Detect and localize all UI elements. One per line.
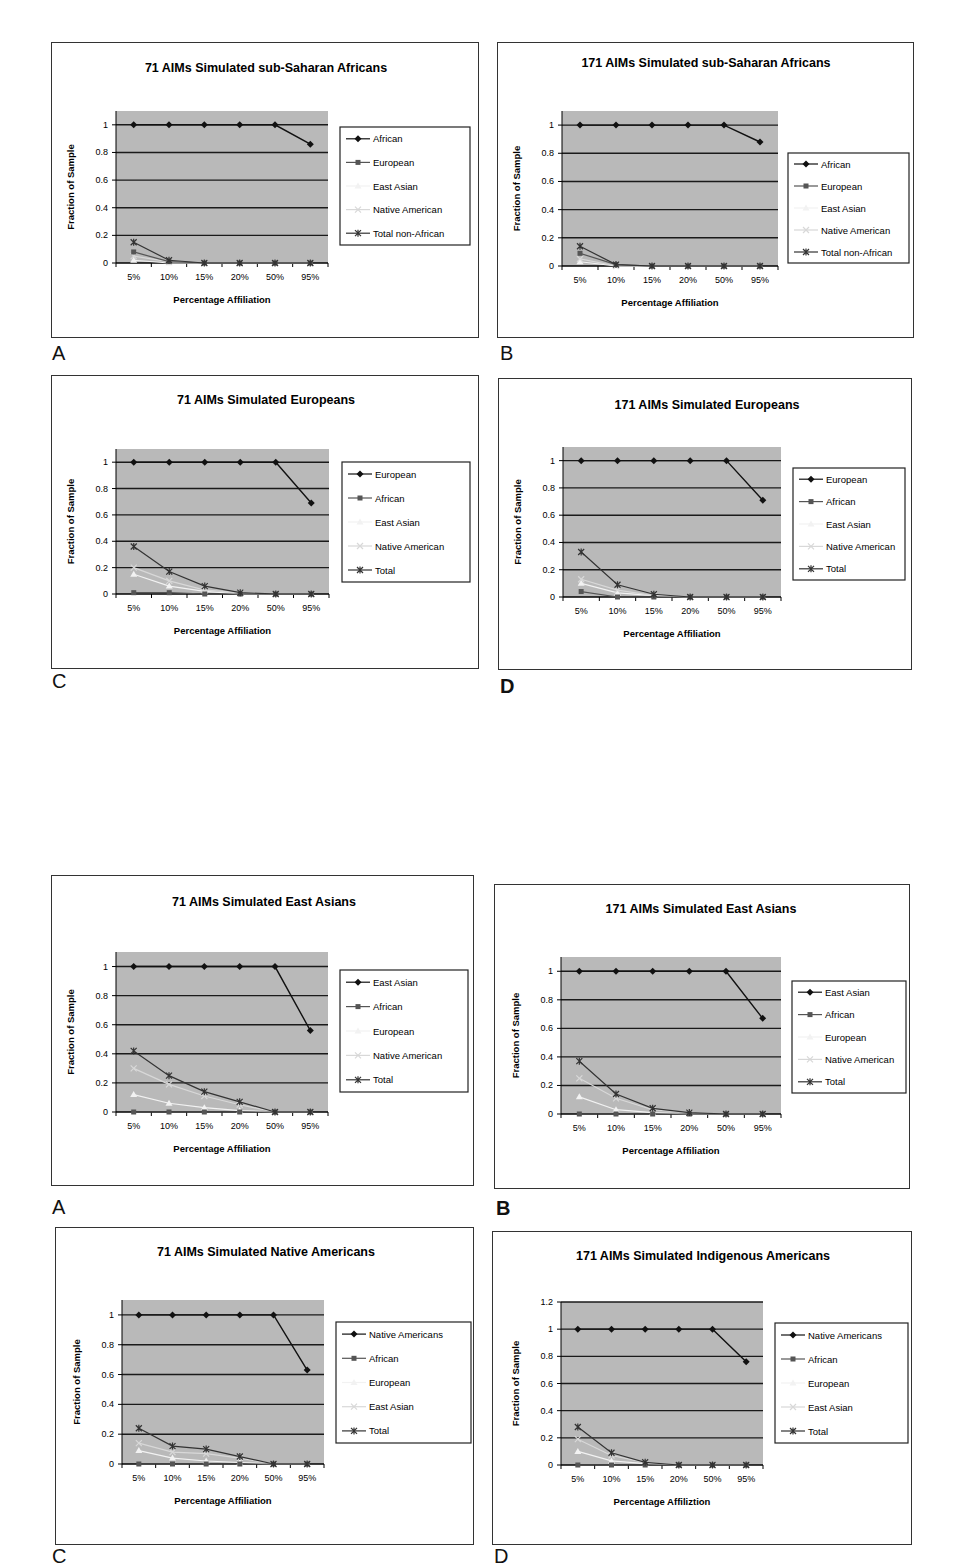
x-axis-label: Percentage Affiliation — [173, 1143, 271, 1154]
legend-label: African — [369, 1353, 399, 1364]
x-tick-label: 15% — [195, 272, 213, 282]
legend-label: Total non-African — [821, 247, 892, 258]
series-marker — [575, 1463, 580, 1468]
y-axis-label: Fraction of Sample — [512, 479, 523, 565]
x-tick-label: 20% — [670, 1474, 688, 1484]
y-tick-label: 0 — [548, 1109, 553, 1119]
y-tick-label: 0.4 — [95, 536, 108, 546]
legend-label: East Asian — [821, 203, 866, 214]
chart-title: 171 AIMs Simulated sub-Saharan Africans — [581, 56, 830, 70]
legend-label: African — [375, 493, 405, 504]
y-tick-label: 0.6 — [95, 510, 108, 520]
x-tick-label: 20% — [231, 272, 249, 282]
x-tick-label: 50% — [717, 1123, 735, 1133]
y-tick-label: 0.2 — [540, 1433, 553, 1443]
y-tick-label: 0.8 — [95, 147, 108, 157]
legend-label: Total — [373, 1074, 393, 1085]
legend-label: European — [373, 1026, 414, 1037]
y-tick-label: 0.4 — [542, 537, 555, 547]
x-tick-label: 95% — [754, 1123, 772, 1133]
legend-label: Total — [808, 1426, 828, 1437]
series-marker — [615, 595, 620, 600]
y-tick-label: 0 — [548, 1460, 553, 1470]
y-tick-label: 1 — [103, 962, 108, 972]
panel-label-bottom-B: B — [496, 1197, 510, 1220]
y-tick-label: 0 — [549, 261, 554, 271]
x-tick-label: 10% — [607, 275, 625, 285]
legend: Native AmericansAfricanEuropeanEast Asia… — [336, 1322, 471, 1443]
legend-label: East Asian — [373, 181, 418, 192]
plot-area — [112, 111, 328, 267]
x-tick-label: 10% — [160, 603, 178, 613]
y-tick-label: 0.2 — [95, 230, 108, 240]
y-tick-label: 1 — [103, 120, 108, 130]
plot-area — [558, 111, 778, 270]
y-axis-label: Fraction of Sample — [511, 146, 522, 232]
y-axis-label: Fraction of Sample — [510, 993, 521, 1079]
x-axis-label: Percentage Affiliation — [621, 297, 719, 308]
x-tick-label: 95% — [301, 1121, 319, 1131]
y-axis-label: Fraction of Sample — [65, 144, 76, 230]
legend-label: African — [808, 1354, 838, 1365]
chart-title: 171 AIMs Simulated Europeans — [614, 398, 799, 412]
x-tick-label: 50% — [267, 603, 285, 613]
legend-label: African — [826, 496, 856, 507]
y-tick-label: 0.8 — [540, 1351, 553, 1361]
chart-title: 71 AIMs Simulated Europeans — [177, 393, 355, 407]
legend-label: Native American — [821, 225, 890, 236]
legend-label: European — [808, 1378, 849, 1389]
x-tick-label: 50% — [266, 272, 284, 282]
y-tick-label: 0.6 — [542, 510, 555, 520]
legend-label: Native American — [373, 204, 442, 215]
x-tick-label: 95% — [301, 272, 319, 282]
y-axis-label: Fraction of Sample — [65, 479, 76, 565]
y-tick-label: 0.6 — [540, 1379, 553, 1389]
legend-label: European — [826, 474, 867, 485]
y-tick-label: 0.4 — [540, 1406, 553, 1416]
x-tick-label: 5% — [127, 272, 140, 282]
legend-marker — [352, 1356, 357, 1361]
x-tick-label: 15% — [636, 1474, 654, 1484]
panel-label-top-D: D — [500, 675, 514, 698]
y-axis-label: Fraction of Sample — [510, 1341, 521, 1427]
y-tick-label: 0.6 — [95, 175, 108, 185]
panel-label-bottom-C: C — [52, 1545, 66, 1567]
series-marker — [609, 1463, 614, 1468]
x-tick-label: 95% — [298, 1473, 316, 1483]
plot-area — [118, 1300, 324, 1468]
legend-label: Native American — [373, 1050, 442, 1061]
legend-marker — [356, 160, 361, 165]
chart-bottom-B: 171 AIMs Simulated East Asians00.20.40.6… — [494, 884, 910, 1189]
legend: EuropeanAfricanEast AsianNative American… — [793, 468, 905, 580]
x-tick-label: 50% — [266, 1121, 284, 1131]
plot-area — [557, 1302, 763, 1469]
chart-bottom-A: 71 AIMs Simulated East Asians00.20.40.60… — [51, 875, 474, 1186]
chart-top-B: 171 AIMs Simulated sub-Saharan Africans0… — [497, 42, 914, 338]
legend-label: Native Americans — [808, 1330, 882, 1341]
series-marker — [579, 589, 584, 594]
legend: East AsianAfricanEuropeanNative American… — [792, 981, 906, 1093]
x-tick-label: 50% — [703, 1474, 721, 1484]
y-tick-label: 1.2 — [540, 1297, 553, 1307]
x-tick-label: 10% — [608, 606, 626, 616]
legend-label: European — [369, 1377, 410, 1388]
x-tick-label: 10% — [607, 1123, 625, 1133]
y-tick-label: 0.4 — [540, 1052, 553, 1062]
y-tick-label: 0 — [103, 1107, 108, 1117]
series-marker — [131, 249, 136, 254]
plot-area — [559, 447, 781, 601]
legend-label: Native Americans — [369, 1329, 443, 1340]
legend-label: African — [373, 1001, 403, 1012]
x-tick-label: 20% — [231, 603, 249, 613]
series-marker — [577, 1112, 582, 1117]
legend-marker — [808, 1012, 813, 1017]
y-tick-label: 0 — [103, 258, 108, 268]
x-axis-label: Percentage Affiliation — [623, 628, 721, 639]
x-tick-label: 5% — [573, 1123, 586, 1133]
y-tick-label: 0.2 — [542, 565, 555, 575]
series-marker — [202, 1110, 207, 1115]
chart-top-A: 71 AIMs Simulated sub-Saharan Africans00… — [51, 42, 479, 338]
series-marker — [131, 590, 136, 595]
legend-label: European — [825, 1032, 866, 1043]
legend-marker — [356, 1004, 361, 1009]
